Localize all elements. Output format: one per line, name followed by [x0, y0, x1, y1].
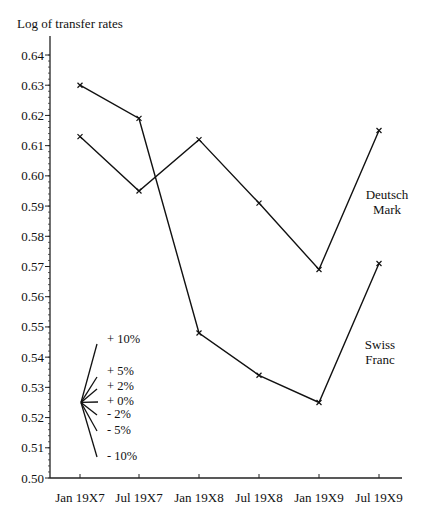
y-tick-label: 0.59: [21, 199, 44, 214]
series-labels: Deutsch Mark Swiss Franc: [365, 187, 409, 367]
data-point-marker: [257, 201, 262, 206]
y-tick-label: 0.58: [21, 229, 44, 244]
y-tick-label: 0.51: [21, 440, 44, 455]
growth-fan-label: + 10%: [107, 332, 140, 346]
label-swiss-franc-2: Franc: [365, 352, 395, 367]
y-tick-label: 0.60: [21, 168, 44, 183]
y-tick-label: 0.50: [21, 471, 44, 486]
y-tick-label: 0.54: [21, 350, 44, 365]
growth-fan-line: [81, 402, 97, 457]
y-tick-label: 0.61: [21, 138, 44, 153]
line-chart: 0.500.510.520.530.540.550.560.570.580.59…: [0, 0, 427, 521]
y-tick-label: 0.64: [21, 48, 44, 63]
y-tick-label: 0.53: [21, 380, 44, 395]
y-tick-label: 0.56: [21, 289, 44, 304]
growth-fan-line: [81, 344, 97, 402]
data-point-marker: [78, 83, 83, 88]
growth-fan-label: - 2%: [107, 407, 131, 421]
data-point-marker: [197, 137, 202, 142]
label-deutsch-mark-1: Deutsch: [366, 187, 409, 202]
growth-fan-label: + 0%: [107, 394, 134, 408]
growth-fan-label: + 2%: [107, 379, 134, 393]
axes: 0.500.510.520.530.540.550.560.570.580.59…: [21, 36, 402, 505]
y-tick-label: 0.57: [21, 259, 44, 274]
x-tick-label: Jul 19X8: [235, 490, 282, 505]
y-tick-label: 0.62: [21, 108, 44, 123]
data-point-marker: [137, 188, 142, 193]
x-tick-label: Jul 19X7: [115, 490, 163, 505]
series-line-swiss-franc: [80, 85, 379, 402]
label-deutsch-mark-2: Mark: [373, 202, 402, 217]
y-tick-label: 0.63: [21, 78, 44, 93]
x-tick-label: Jan 19X7: [55, 490, 105, 505]
growth-fan-label: - 10%: [107, 449, 137, 463]
label-swiss-franc-1: Swiss: [365, 337, 395, 352]
growth-fan-line: [81, 377, 97, 402]
data-point-marker: [78, 134, 83, 139]
y-tick-label: 0.55: [21, 319, 44, 334]
series-lines: [78, 83, 382, 405]
series-line-deutsch-mark: [80, 131, 379, 270]
growth-rate-fan: + 10%+ 5%+ 2%+ 0%- 2%- 5%- 10%: [81, 332, 140, 463]
growth-fan-label: + 5%: [107, 364, 134, 378]
growth-fan-label: - 5%: [107, 423, 131, 437]
growth-fan-line: [81, 402, 97, 431]
data-point-marker: [377, 128, 382, 133]
data-point-marker: [257, 373, 262, 378]
x-tick-label: Jul 19X9: [355, 490, 402, 505]
x-tick-label: Jan 19X8: [174, 490, 223, 505]
y-tick-label: 0.52: [21, 410, 44, 425]
x-tick-label: Jan 19X9: [294, 490, 343, 505]
